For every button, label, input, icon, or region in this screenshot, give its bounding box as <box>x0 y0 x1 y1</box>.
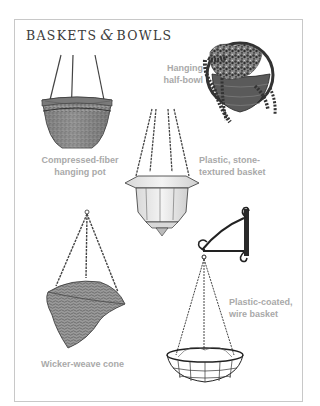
label-line: half-bowl <box>162 74 203 86</box>
stone-basket-illustration <box>125 109 199 236</box>
label-compressed-fiber-pot: Compressed-fiber hanging pot <box>36 154 124 178</box>
label-line: Wicker-weave cone <box>41 358 124 370</box>
label-line: wire basket <box>229 308 293 320</box>
wire-basket-illustration <box>167 207 249 382</box>
label-line: Plastic-coated, <box>229 296 293 308</box>
fiber-pot-illustration <box>42 55 112 148</box>
label-hanging-half-bowl: Hanging half-bowl <box>162 62 203 86</box>
label-line: Plastic, stone- <box>199 154 266 166</box>
half-bowl-illustration <box>205 43 275 122</box>
label-wicker-weave-cone: Wicker-weave cone <box>41 358 124 370</box>
label-line: Compressed-fiber <box>36 154 124 166</box>
label-stone-textured-basket: Plastic, stone- textured basket <box>199 154 266 178</box>
label-line: textured basket <box>199 166 266 178</box>
label-wire-basket: Plastic-coated, wire basket <box>229 296 293 320</box>
label-line: Hanging <box>162 62 203 74</box>
label-line: hanging pot <box>36 166 124 178</box>
wicker-cone-illustration <box>47 210 125 348</box>
